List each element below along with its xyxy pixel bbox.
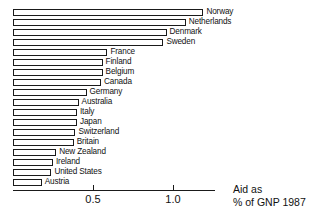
bar-row: Australia — [0, 98, 325, 108]
bar — [13, 59, 103, 66]
bar-label: France — [110, 47, 135, 57]
x-axis-tick — [173, 185, 174, 190]
bar-label: Switzerland — [78, 127, 119, 137]
bar-label: Netherlands — [189, 17, 232, 27]
x-axis-line — [13, 190, 215, 191]
bar-row: Sweden — [0, 38, 325, 48]
x-axis-tick-label: 0.5 — [85, 193, 100, 206]
bar-label: Sweden — [166, 37, 195, 47]
bar — [13, 79, 101, 86]
bar — [13, 29, 167, 36]
bar — [13, 99, 79, 106]
bar-label: Belgium — [106, 67, 135, 77]
bar-row: New Zealand — [0, 148, 325, 158]
bar-label: Norway — [206, 7, 233, 17]
bar-row: Germany — [0, 88, 325, 98]
bar — [13, 129, 75, 136]
bar — [13, 69, 103, 76]
bar-row: Switzerland — [0, 128, 325, 138]
bar-label: Italy — [80, 107, 94, 117]
bar-label: Denmark — [170, 27, 202, 37]
bar — [13, 89, 87, 96]
aid-gnp-bar-chart: NorwayNetherlandsDenmarkSwedenFranceFinl… — [0, 0, 325, 218]
bar-row: Ireland — [0, 158, 325, 168]
bar — [13, 119, 77, 126]
x-axis-caption: Aid as % of GNP 1987 — [233, 183, 306, 208]
bar — [13, 169, 51, 176]
bar-label: Canada — [104, 77, 132, 87]
bar — [13, 39, 163, 46]
bar — [13, 149, 56, 156]
bar-row: Canada — [0, 78, 325, 88]
bar-row: Japan — [0, 118, 325, 128]
bar-label: New Zealand — [59, 147, 106, 157]
bar-row: France — [0, 48, 325, 58]
bar — [13, 109, 77, 116]
bar-label: Ireland — [56, 157, 80, 167]
bar-row: Netherlands — [0, 18, 325, 28]
bar-row: Britain — [0, 138, 325, 148]
bar-row: Belgium — [0, 68, 325, 78]
bar — [13, 159, 53, 166]
bar — [13, 19, 186, 26]
bar-row: Norway — [0, 8, 325, 18]
bar-label: Germany — [90, 87, 123, 97]
bar-label: Finland — [106, 57, 132, 67]
bar-label: United States — [54, 167, 101, 177]
bar — [13, 9, 203, 16]
bar — [13, 139, 74, 146]
x-axis-tick — [93, 185, 94, 190]
x-axis-tick-label: 1.0 — [165, 193, 180, 206]
bar-row: Finland — [0, 58, 325, 68]
bar-row: Denmark — [0, 28, 325, 38]
axis-caption-line-2: % of GNP 1987 — [233, 196, 306, 209]
bar — [13, 179, 42, 186]
bar-label: Austria — [45, 177, 69, 187]
axis-caption-line-1: Aid as — [233, 183, 306, 196]
bar — [13, 49, 107, 56]
bar-label: Australia — [82, 97, 113, 107]
bar-label: Britain — [77, 137, 99, 147]
bar-row: Italy — [0, 108, 325, 118]
bar-label: Japan — [80, 117, 102, 127]
